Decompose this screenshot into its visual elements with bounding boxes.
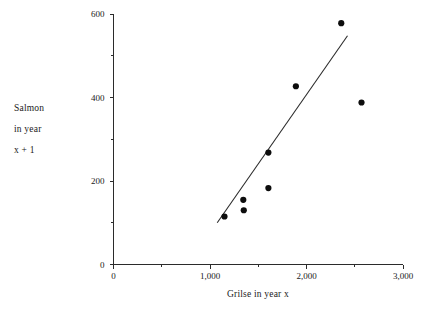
x-tick-label: 3,000 [393,271,414,281]
regression-line [217,36,347,223]
y-tick-label: 200 [91,176,105,186]
x-tick-label: 0 [111,271,116,281]
y-tick-label: 400 [91,93,105,103]
data-points-group [221,20,364,220]
y-tick-label: 600 [91,9,105,19]
data-point [358,99,364,105]
x-tick-label: 2,000 [296,271,317,281]
y-axis-ticks: 0200400600 [91,9,114,270]
axes-group [113,14,403,265]
data-point [221,213,227,219]
y-tick-label: 0 [100,260,105,270]
data-point [241,207,247,213]
data-point [338,20,344,26]
plot-area: 0200400600 01,0002,0003,000 [0,0,433,315]
data-point [265,150,271,156]
data-point [240,197,246,203]
scatter-chart-figure: Salmon in year x + 1 Grilse in year x 02… [0,0,433,315]
x-tick-label: 1,000 [200,271,221,281]
x-axis-ticks: 01,0002,0003,000 [111,265,413,281]
regression-line-segment [217,36,347,223]
data-point [293,83,299,89]
data-point [265,185,271,191]
